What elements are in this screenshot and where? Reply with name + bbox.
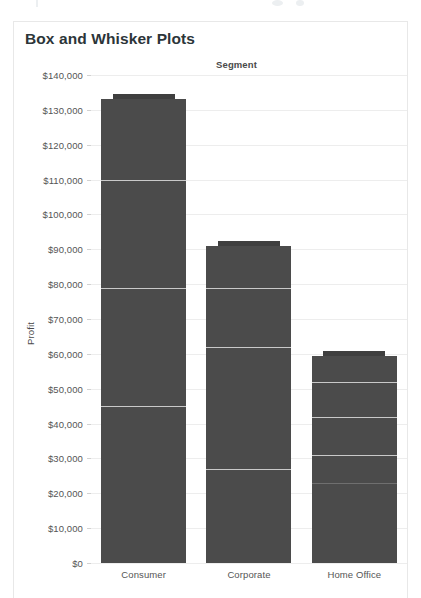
page-title: Box and Whisker Plots xyxy=(25,30,195,48)
box-inner-line xyxy=(312,483,397,484)
y-axis-tick-label: $30,000 xyxy=(48,453,83,464)
gridline xyxy=(91,563,407,564)
visualization-card: Box and Whisker Plots Segment Profit $0$… xyxy=(13,21,408,598)
column-shelf-header: Segment xyxy=(14,59,407,70)
y-axis-tick-label: $140,000 xyxy=(43,70,83,81)
chrome-artifact-center-a xyxy=(272,0,283,6)
y-axis-tick-label: $110,000 xyxy=(43,174,83,185)
box-whisker-mark[interactable] xyxy=(302,75,407,563)
box xyxy=(101,99,186,563)
plot-area: $0$10,000$20,000$30,000$40,000$50,000$60… xyxy=(91,75,407,563)
chrome-artifact-left xyxy=(36,0,38,7)
y-axis-tick-label: $0 xyxy=(72,558,83,569)
y-axis-title: Profit xyxy=(25,304,36,364)
box-inner-line xyxy=(101,180,186,181)
y-axis-tick-label: $50,000 xyxy=(48,383,83,394)
y-axis-tick-label: $130,000 xyxy=(43,104,83,115)
box xyxy=(312,356,397,563)
box-inner-line xyxy=(312,417,397,418)
y-axis-tick-label: $90,000 xyxy=(48,244,83,255)
box xyxy=(206,246,291,563)
box-whisker-chart: Segment Profit $0$10,000$20,000$30,000$4… xyxy=(14,59,407,598)
y-axis-tick-label: $70,000 xyxy=(48,314,83,325)
box-inner-line xyxy=(206,288,291,289)
box-inner-line xyxy=(206,469,291,470)
x-axis-tick-label: Home Office xyxy=(302,569,407,580)
y-axis-tick-label: $10,000 xyxy=(48,523,83,534)
box-inner-line xyxy=(206,347,291,348)
y-axis-tick-label: $60,000 xyxy=(48,348,83,359)
box-whisker-mark[interactable] xyxy=(196,75,301,563)
chrome-artifact-center-b xyxy=(296,0,304,6)
y-axis-tick-label: $100,000 xyxy=(43,209,83,220)
y-axis-tick-label: $40,000 xyxy=(48,418,83,429)
x-axis-tick-label: Consumer xyxy=(91,569,196,580)
column-header-label: Segment xyxy=(216,59,257,70)
box-inner-line xyxy=(312,382,397,383)
box-whisker-mark[interactable] xyxy=(91,75,196,563)
y-axis-tick-label: $120,000 xyxy=(43,139,83,150)
y-axis-tick-label: $20,000 xyxy=(48,488,83,499)
box-inner-line xyxy=(101,406,186,407)
x-axis-tick-label: Corporate xyxy=(196,569,301,580)
page-chrome-sliver xyxy=(0,0,421,21)
y-axis-tick-label: $80,000 xyxy=(48,279,83,290)
box-inner-line xyxy=(101,288,186,289)
y-axis-tick xyxy=(87,563,91,564)
box-inner-line xyxy=(312,455,397,456)
